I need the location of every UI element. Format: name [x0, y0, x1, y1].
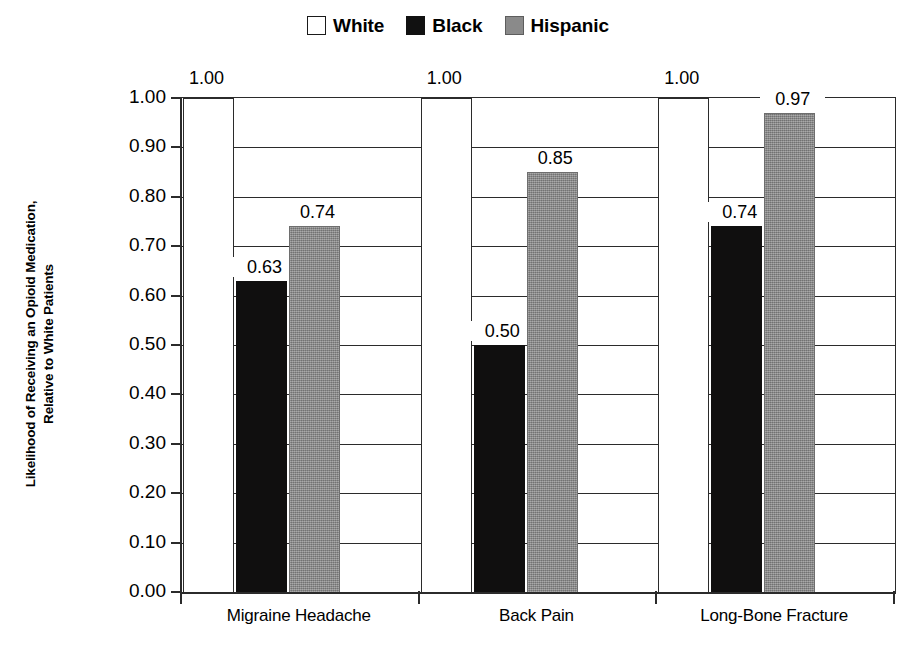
y-tick-mark: [171, 146, 180, 148]
y-tick-mark: [171, 245, 180, 247]
y-tick-label: 0.20: [104, 482, 166, 501]
y-tick-label: 0.60: [104, 285, 166, 304]
chart-plot-area: 1.000.900.800.700.600.500.400.300.200.10…: [0, 0, 916, 649]
y-tick-label: 0.30: [104, 433, 166, 452]
y-tick-mark: [171, 492, 180, 494]
value-label: 0.63: [232, 257, 297, 277]
y-tick-label: 0.10: [104, 532, 166, 551]
y-tick-mark: [171, 393, 180, 395]
x-tick-mark: [180, 591, 182, 604]
y-tick-label: 0.50: [104, 334, 166, 353]
y-tick-label: 1.00: [104, 87, 166, 106]
bar-white-back-pain: [421, 98, 472, 592]
y-tick-mark: [171, 344, 180, 346]
value-label: 1.00: [171, 69, 242, 87]
bar-white-migraine-headache: [183, 98, 234, 592]
y-tick-label: 0.00: [104, 581, 166, 600]
y-tick-mark: [171, 295, 180, 297]
y-tick-mark: [171, 97, 180, 99]
plot-frame: 0.630.740.500.850.740.97: [180, 97, 896, 594]
y-tick-label: 0.40: [104, 383, 166, 402]
x-tick-mark: [418, 591, 420, 604]
y-tick-mark: [171, 542, 180, 544]
value-label: 0.50: [470, 321, 535, 341]
bar-white-long-bone-fracture: [658, 98, 709, 592]
y-tick-mark: [171, 591, 180, 593]
value-label: 1.00: [409, 69, 480, 87]
x-category-label: Back Pain: [418, 606, 656, 626]
bar-hispanic-migraine-headache: [289, 226, 340, 592]
value-label: 0.74: [707, 202, 772, 222]
bar-hispanic-back-pain: [527, 172, 578, 592]
bar-black-migraine-headache: [236, 281, 287, 592]
x-tick-mark: [893, 591, 895, 604]
value-label: 0.97: [760, 89, 825, 109]
value-label: 1.00: [646, 69, 717, 87]
y-tick-label: 0.80: [104, 186, 166, 205]
y-tick-label: 0.70: [104, 235, 166, 254]
y-tick-mark: [171, 196, 180, 198]
y-tick-label: 0.90: [104, 136, 166, 155]
bar-black-long-bone-fracture: [711, 226, 762, 592]
x-tick-mark: [655, 591, 657, 604]
y-tick-mark: [171, 443, 180, 445]
bar-black-back-pain: [474, 345, 525, 592]
x-category-label: Long-Bone Fracture: [655, 606, 893, 626]
x-category-label: Migraine Headache: [180, 606, 418, 626]
bar-hispanic-long-bone-fracture: [764, 113, 815, 592]
value-label: 0.85: [523, 148, 588, 168]
value-label: 0.74: [285, 202, 350, 222]
